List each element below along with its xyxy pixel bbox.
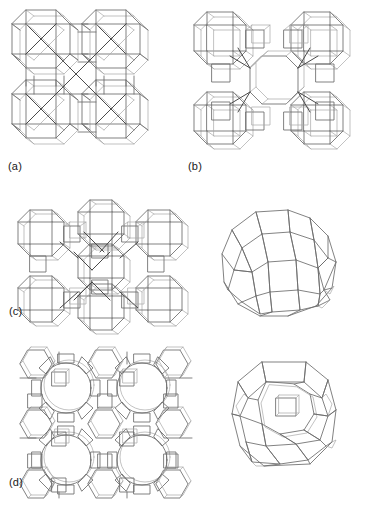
panel-b-framework bbox=[186, 4, 362, 156]
central-pore bbox=[250, 51, 304, 104]
panel-d-drawing bbox=[14, 348, 196, 498]
isolated-cage-c-drawing bbox=[212, 206, 348, 326]
panel-a-framework bbox=[6, 4, 178, 156]
hex-unit bbox=[20, 407, 55, 438]
cage-unit bbox=[18, 210, 70, 260]
framework-linkers bbox=[212, 30, 334, 130]
panel-c-drawing bbox=[14, 196, 190, 340]
panel-label-c: (c) bbox=[9, 305, 22, 317]
figure-canvas: (a) bbox=[0, 0, 365, 514]
panel-d-framework bbox=[14, 348, 196, 498]
cage-unit bbox=[12, 10, 78, 74]
hex-unit bbox=[156, 407, 191, 438]
isolated-cage-d-drawing bbox=[222, 358, 346, 478]
cage-unit bbox=[18, 276, 70, 326]
panel-label-b: (b) bbox=[188, 160, 202, 172]
panel-label-a: (a) bbox=[8, 160, 22, 172]
isolated-cage-c bbox=[212, 206, 348, 326]
cage-unit bbox=[194, 92, 253, 149]
hex-unit bbox=[156, 347, 191, 378]
cage-unit bbox=[291, 92, 350, 149]
panel-a-drawing bbox=[6, 4, 178, 156]
panel-b-drawing bbox=[186, 4, 362, 156]
pore-unit bbox=[32, 354, 100, 422]
isolated-cage-d bbox=[222, 358, 346, 478]
hex-unit bbox=[20, 347, 55, 378]
cage-unit bbox=[12, 80, 78, 144]
hex-unit bbox=[88, 347, 123, 378]
hex-unit bbox=[20, 467, 55, 498]
framework-diagonals bbox=[230, 48, 318, 112]
cage-unit bbox=[82, 10, 148, 74]
panel-c-framework bbox=[14, 196, 190, 340]
cage-unit bbox=[194, 12, 253, 69]
framework-linkers-back bbox=[246, 25, 308, 125]
cage-unit bbox=[291, 12, 350, 69]
hex-unit bbox=[88, 407, 123, 438]
hex-unit bbox=[156, 467, 191, 498]
panel-label-d: (d) bbox=[9, 476, 23, 488]
pore-unit bbox=[108, 354, 176, 422]
